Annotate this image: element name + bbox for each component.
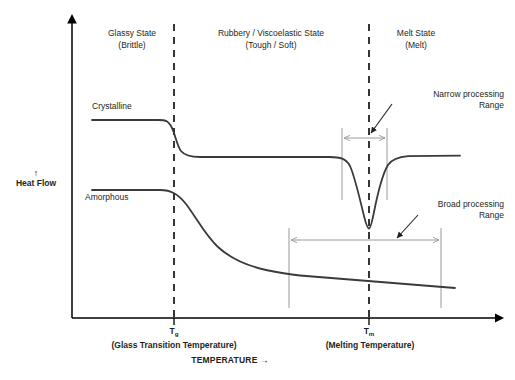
- figure-container: Glassy State (Brittle) Rubbery / Viscoel…: [0, 0, 515, 380]
- region-label-melt: Melt State (Melt): [381, 28, 451, 51]
- transition-markers: [174, 24, 369, 322]
- figure-caption: [0, 369, 515, 380]
- region-rubbery-subtitle: (Tough / Soft): [196, 40, 346, 52]
- x-axis-ticks: [174, 318, 369, 325]
- curve-label-amorphous: Amorphous: [85, 192, 128, 204]
- annotation-narrow-processing-range: Narrow processing Range: [366, 89, 504, 111]
- narrow-range-line1: Narrow processing: [366, 89, 504, 100]
- region-melt-title: Melt State: [381, 28, 451, 40]
- region-melt-subtitle: (Melt): [381, 40, 451, 52]
- tg-subscript: g: [175, 330, 179, 337]
- dsc-thermogram-diagram: [0, 0, 515, 380]
- y-axis-label: ↑ Heat Flow: [4, 168, 68, 190]
- annotation-broad-processing-range: Broad processing Range: [362, 199, 504, 221]
- region-rubbery-title: Rubbery / Viscoelastic State: [196, 28, 346, 40]
- region-label-glassy: Glassy State (Brittle): [86, 28, 178, 51]
- narrow-range-line2: Range: [366, 100, 504, 111]
- region-glassy-subtitle: (Brittle): [86, 40, 178, 52]
- broad-range-line1: Broad processing: [362, 199, 504, 210]
- region-label-rubbery: Rubbery / Viscoelastic State (Tough / So…: [196, 28, 346, 51]
- tick-label-tg: Tg: [154, 326, 194, 339]
- tick-label-tm: Tm: [349, 326, 389, 339]
- tm-description: (Melting Temperature): [306, 340, 434, 352]
- y-axis-arrow-icon: ↑: [4, 168, 68, 178]
- y-axis-label-text: Heat Flow: [4, 178, 68, 190]
- region-glassy-title: Glassy State: [86, 28, 178, 40]
- curve-label-crystalline: Crystalline: [92, 101, 132, 113]
- x-axis-label: TEMPERATURE →: [135, 355, 325, 367]
- broad-range-line2: Range: [362, 210, 504, 221]
- tm-subscript: m: [369, 330, 375, 337]
- tg-description: (Glass Transition Temperature): [84, 340, 264, 352]
- broad-range-guides: [289, 228, 441, 308]
